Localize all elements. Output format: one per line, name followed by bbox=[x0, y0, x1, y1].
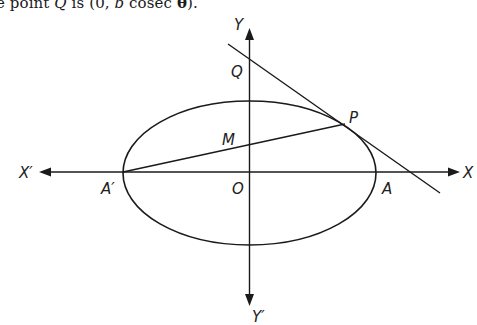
label-a-prime: A′ bbox=[100, 180, 115, 198]
label-q: Q bbox=[231, 63, 243, 81]
x-axis-arrow-left-icon bbox=[39, 168, 51, 177]
label-a: A bbox=[381, 180, 392, 198]
label-y: Y bbox=[234, 16, 245, 34]
label-p: P bbox=[349, 109, 359, 127]
tangent-line bbox=[228, 44, 440, 193]
label-y-prime: Y′ bbox=[252, 308, 265, 325]
label-m: M bbox=[222, 131, 235, 149]
y-axis-arrow-up-icon bbox=[245, 28, 254, 40]
label-x: X bbox=[462, 164, 474, 182]
label-x-prime: X′ bbox=[18, 164, 33, 182]
label-o: O bbox=[232, 180, 244, 198]
x-axis-arrow-right-icon bbox=[448, 168, 460, 177]
ellipse-diagram: Y Q P M X′ A′ O A X Y′ bbox=[0, 0, 477, 325]
y-axis-arrow-down-icon bbox=[245, 294, 254, 306]
